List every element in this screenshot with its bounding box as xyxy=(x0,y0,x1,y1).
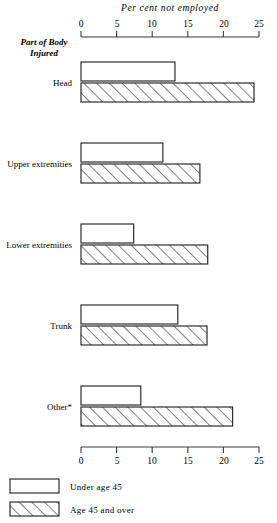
category-label-upper-extremities: Upper extremities xyxy=(7,159,72,169)
legend: Under age 45 Age 45 and over xyxy=(10,479,134,516)
chart-title: Per cent not employed xyxy=(120,3,219,13)
bar-group-trunk: Trunk xyxy=(50,305,207,345)
bar-other-under-45 xyxy=(81,386,141,405)
bar-head-under-45 xyxy=(81,62,175,81)
bottom-tick-label-5: 5 xyxy=(115,456,120,466)
tick-label-25: 25 xyxy=(254,19,264,29)
top-axis-tick-labels: 0 5 10 15 20 25 xyxy=(79,19,264,29)
legend-item-under-45: Under age 45 xyxy=(10,479,122,493)
y-axis-title-line2: Injured xyxy=(29,48,59,58)
tick-label-5: 5 xyxy=(115,19,120,29)
category-label-trunk: Trunk xyxy=(50,321,72,331)
tick-label-15: 15 xyxy=(183,19,193,29)
legend-label-45-and-over: Age 45 and over xyxy=(70,505,134,515)
legend-item-45-and-over: Age 45 and over xyxy=(10,502,134,516)
bar-head-45-and-over xyxy=(81,83,254,102)
chart-root: Per cent not employed 0 5 10 15 20 25 Pa… xyxy=(0,0,277,523)
bar-group-upper-extremities: Upper extremities xyxy=(7,143,200,183)
bar-group-lower-extremities: Lower extremities xyxy=(6,224,207,264)
tick-label-20: 20 xyxy=(219,19,229,29)
hatched-swatch xyxy=(10,502,59,516)
bottom-tick-label-25: 25 xyxy=(254,456,264,466)
white-swatch xyxy=(10,479,59,493)
bottom-tick-label-20: 20 xyxy=(219,456,229,466)
legend-label-under-45: Under age 45 xyxy=(70,482,122,492)
category-label-other: Other* xyxy=(47,402,72,412)
bar-trunk-under-45 xyxy=(81,305,178,324)
bottom-axis xyxy=(81,447,259,453)
bar-upper-extremities-under-45 xyxy=(81,143,163,162)
top-axis xyxy=(81,31,259,37)
bar-upper-extremities-45-and-over xyxy=(81,164,200,183)
bar-lower-extremities-under-45 xyxy=(81,224,134,243)
bar-trunk-45-and-over xyxy=(81,326,207,345)
bar-other-45-and-over xyxy=(81,407,233,426)
tick-label-0: 0 xyxy=(79,19,84,29)
bar-lower-extremities-45-and-over xyxy=(81,245,208,264)
y-axis-title: Part of Body Injured xyxy=(21,37,69,58)
tick-label-10: 10 xyxy=(147,19,157,29)
category-label-lower-extremities: Lower extremities xyxy=(6,240,72,250)
bar-group-head: Head xyxy=(53,62,254,102)
bottom-axis-tick-labels: 0 5 10 15 20 25 xyxy=(79,456,264,466)
bottom-tick-label-0: 0 xyxy=(79,456,84,466)
bottom-tick-label-15: 15 xyxy=(183,456,193,466)
category-label-head: Head xyxy=(53,78,72,88)
bottom-tick-label-10: 10 xyxy=(147,456,157,466)
y-axis-title-line1: Part of Body xyxy=(21,37,69,47)
bar-group-other: Other* xyxy=(47,386,233,426)
